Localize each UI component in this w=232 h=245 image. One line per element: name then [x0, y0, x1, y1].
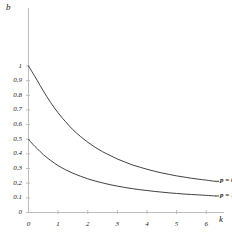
- plot-area: [0, 0, 232, 245]
- y-tick-label: 0.2: [2, 179, 22, 187]
- y-tick-label: 0.3: [2, 164, 22, 172]
- chart-container: b k 00.10.20.30.40.50.60.70.80.91 012345…: [0, 0, 232, 245]
- x-tick-label: 5: [170, 220, 184, 228]
- x-tick-label: 6: [199, 220, 213, 228]
- x-tick-label: 1: [51, 220, 65, 228]
- y-tick-label: 0: [2, 208, 22, 216]
- y-tick-label: 0.1: [2, 193, 22, 201]
- data-curves: [29, 66, 216, 196]
- y-tick-label: 1: [2, 62, 22, 70]
- y-tick-label: 0.4: [2, 149, 22, 157]
- x-axis-label: k: [219, 214, 223, 224]
- curve-annotation-series-0: p = 0: [220, 176, 232, 184]
- x-tick-label: 3: [110, 220, 124, 228]
- y-tick-label: 0.5: [2, 135, 22, 143]
- curve-annotation-series-1: p = 1: [220, 191, 232, 199]
- y-tick-label: 0.6: [2, 120, 22, 128]
- axes-group: [29, 8, 225, 213]
- x-tick-label: 0: [22, 220, 36, 228]
- y-tick-label: 0.8: [2, 91, 22, 99]
- y-tick-label: 0.7: [2, 105, 22, 113]
- annotation-leader-lines: [215, 181, 219, 196]
- curve-series-0: [29, 66, 216, 181]
- x-tick-label: 4: [140, 220, 154, 228]
- x-tick-label: 2: [81, 220, 95, 228]
- curve-series-1: [29, 139, 216, 196]
- y-tick-label: 0.9: [2, 76, 22, 84]
- y-axis-label: b: [6, 2, 11, 12]
